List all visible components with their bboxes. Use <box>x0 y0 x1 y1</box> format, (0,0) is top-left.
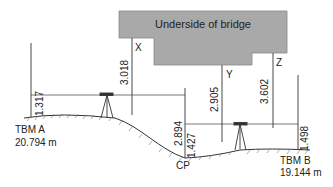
reading-z: 3.602 <box>259 79 270 104</box>
reading-cp-bs: 1.427 <box>186 133 197 158</box>
point-x-label: X <box>135 42 142 53</box>
point-cp-label: CP <box>176 160 190 171</box>
tbm-b-level: 19.144 m <box>280 167 322 178</box>
bridge: Underside of bridge <box>119 11 287 65</box>
level-instrument-2 <box>234 123 247 151</box>
reading-tbm-b: 1.498 <box>299 126 310 151</box>
reading-cp-fs: 2.894 <box>173 121 184 146</box>
tbm-a-name: TBM A <box>15 124 45 135</box>
level-instrument-1 <box>100 93 113 118</box>
tbm-a-level: 20.794 m <box>15 137 57 148</box>
tbm-b-name: TBM B <box>280 155 311 166</box>
reading-tbm-a: 1.317 <box>34 91 45 116</box>
point-z-label: Z <box>276 57 282 68</box>
point-y-label: Y <box>226 69 233 80</box>
reading-x: 3.018 <box>119 60 130 85</box>
ground-line <box>24 114 310 161</box>
reading-y: 2.905 <box>209 87 220 112</box>
bridge-label: Underside of bridge <box>155 18 251 30</box>
levelling-diagram: Underside of bridge <box>0 0 333 187</box>
